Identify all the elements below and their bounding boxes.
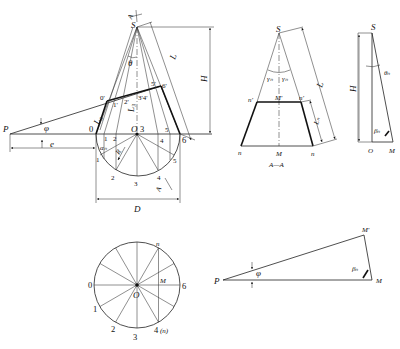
label-beta-n: βₙ [373, 127, 381, 135]
label-S: S [371, 22, 376, 32]
label-3: 3 [133, 332, 137, 342]
label-1: 1 [93, 304, 97, 314]
section-view: S γₙ γₙ n' M' n' n M n L Lₙ A—A [238, 24, 337, 169]
label-S: S [276, 24, 281, 34]
label-2: 2 [111, 324, 115, 334]
label-4n: (n) [160, 327, 169, 335]
main-view: S A θ P φ e H L D L₀ L₃ αₙ R O A 0' 1' 2… [2, 10, 214, 214]
label-circle-4: 4 [157, 174, 161, 182]
label-base-4: 4 [160, 137, 164, 145]
label-circle-2: 2 [111, 174, 115, 182]
label-gamma-right: γₙ [282, 75, 288, 83]
label-phi: φ [44, 123, 49, 133]
label-6: 6 [182, 281, 186, 291]
label-S: S [131, 20, 136, 30]
right-triangle: S H θₙ βₙ O M [348, 22, 396, 155]
label-circle-3: 3 [134, 180, 138, 188]
label-circle-5: 5 [173, 157, 177, 165]
label-2p: 2' [124, 98, 129, 106]
label-theta-n: θₙ [384, 69, 390, 77]
label-0: 0 [88, 280, 92, 290]
label-n-prime-left: n' [248, 96, 254, 104]
label-n-prime-right: n' [299, 94, 305, 102]
label-L: L [167, 53, 178, 62]
label-n-right: n [311, 150, 315, 158]
label-circle-1: 1 [96, 156, 100, 164]
label-n: n [156, 240, 160, 248]
label-6p: 6' [162, 82, 167, 90]
label-L: L [314, 81, 325, 90]
bottom-circle: n M O 0 1 2 3 4 (n) 6 [88, 240, 186, 342]
bottom-triangle: P φ M' βₙ M [213, 226, 383, 288]
label-beta-n: βₙ [351, 265, 359, 273]
label-0p: 0' [100, 94, 105, 102]
label-R: R [114, 147, 124, 157]
label-4: 4 [154, 325, 159, 335]
label-M: M [388, 147, 396, 155]
label-P: P [213, 276, 220, 286]
label-O: O [133, 290, 140, 300]
label-H: H [199, 75, 209, 83]
label-Ln: Lₙ [312, 117, 322, 127]
label-base-3: 3 [140, 124, 144, 134]
label-D: D [133, 204, 141, 214]
label-A-A: A—A [268, 161, 285, 169]
label-M-prime: M' [274, 94, 283, 102]
label-O: O [131, 124, 138, 134]
label-theta: θ [128, 58, 133, 68]
label-M: M [375, 277, 383, 285]
label-base-5: 5 [165, 126, 169, 134]
label-base-1: 1 [104, 135, 108, 143]
label-1p: 1' [113, 101, 118, 109]
label-P: P [2, 124, 9, 134]
label-34p: 3'4' [138, 94, 148, 102]
label-phi: φ [256, 268, 261, 278]
label-alpha-n: αₙ [100, 144, 107, 152]
technical-drawing: S A θ P φ e H L D L₀ L₃ αₙ R O A 0' 1' 2… [0, 0, 400, 349]
label-O: O [368, 147, 373, 155]
label-base-0: 0 [89, 124, 93, 134]
label-base-2: 2 [113, 135, 117, 143]
label-A-bottom: A [154, 185, 164, 193]
label-base-6: 6 [182, 135, 186, 145]
label-5p: 5' [151, 80, 156, 88]
label-M-prime: M' [361, 226, 370, 234]
label-gamma-left: γₙ [267, 75, 273, 83]
label-H: H [348, 85, 358, 93]
label-e: e [50, 139, 54, 149]
label-M: M [275, 150, 283, 158]
label-M: M [159, 277, 167, 285]
label-n-left: n [238, 149, 242, 157]
